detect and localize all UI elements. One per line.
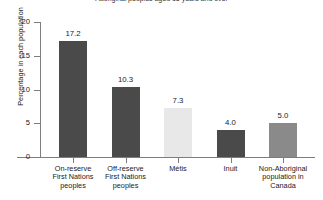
bar-value-4: 4.0 xyxy=(209,119,253,127)
x-axis-line xyxy=(17,157,315,158)
bar-chart: Aboriginal peoples aged 15 years and ove… xyxy=(0,0,323,200)
category-line: peoples xyxy=(113,181,139,190)
bars-layer: 17.210.37.34.05.0 xyxy=(0,22,323,157)
bar-value-3: 7.3 xyxy=(156,97,200,105)
bar-4 xyxy=(217,130,245,157)
chart-title: Aboriginal peoples aged 15 years and ove… xyxy=(0,0,323,3)
bar-5 xyxy=(269,123,297,157)
bar-value-1: 17.2 xyxy=(51,30,95,38)
category-line: Inuit xyxy=(224,164,238,173)
x-tick-3 xyxy=(178,158,179,163)
bar-2 xyxy=(112,87,140,157)
category-line: Canada xyxy=(270,181,296,190)
bar-1 xyxy=(59,41,87,157)
bar-value-2: 10.3 xyxy=(104,76,148,84)
y-tick-0 xyxy=(34,157,40,158)
bar-value-5: 5.0 xyxy=(261,112,305,120)
x-category-label-5: Non-Aboriginalpopulation inCanada xyxy=(252,165,314,190)
bar-3 xyxy=(164,108,192,157)
category-line: Métis xyxy=(169,164,186,173)
x-tick-5 xyxy=(283,158,284,163)
category-line: peoples xyxy=(60,181,86,190)
x-tick-4 xyxy=(231,158,232,163)
x-tick-2 xyxy=(126,158,127,163)
x-tick-1 xyxy=(73,158,74,163)
